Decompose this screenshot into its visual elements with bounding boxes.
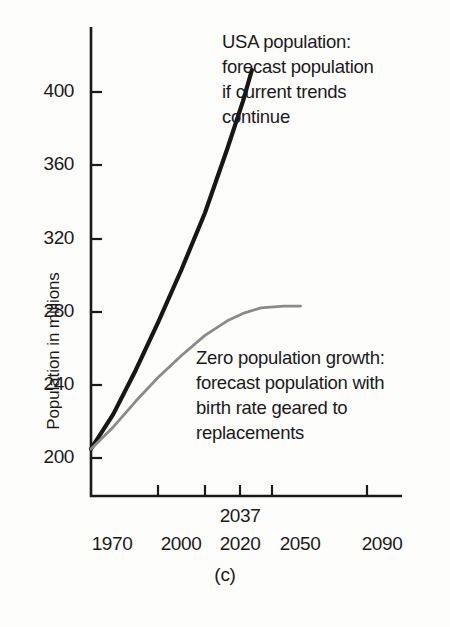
usa-population-annotation: USA population: forecast population if c… <box>222 29 374 129</box>
x-tick-label-2090: 2090 <box>362 533 403 555</box>
x-tick-label-1970: 1970 <box>92 533 133 555</box>
y-tick-label-320: 320 <box>12 227 74 249</box>
y-tick-label-400: 400 <box>12 80 74 102</box>
usa-annotation-line-2: forecast population <box>222 54 374 79</box>
x-tick-label-2050: 2050 <box>280 533 321 555</box>
x-tick-label-2000: 2000 <box>161 533 202 555</box>
y-axis-title: Population in millions <box>44 221 64 481</box>
zpg-annotation-line-2: forecast population with <box>196 370 385 395</box>
x-axis-extra-year-2037: 2037 <box>220 505 261 527</box>
x-axis-ticks <box>158 485 367 496</box>
usa-annotation-line-1: USA population: <box>222 29 374 54</box>
zpg-annotation-line-3: birth rate geared to <box>196 395 385 420</box>
usa-annotation-line-3: if current trends <box>222 79 374 104</box>
y-axis-ticks <box>91 92 102 458</box>
y-tick-label-360: 360 <box>12 153 74 175</box>
x-tick-label-2020: 2020 <box>220 533 261 555</box>
figure-caption: (c) <box>0 564 450 586</box>
y-tick-label-280: 280 <box>12 300 74 322</box>
zero-population-growth-annotation: Zero population growth: forecast populat… <box>196 345 385 445</box>
zpg-annotation-line-4: replacements <box>196 420 385 445</box>
y-tick-label-240: 240 <box>12 373 74 395</box>
usa-annotation-line-4: continue <box>222 104 374 129</box>
figure-container: Population in millions 400 360 320 280 2… <box>0 0 450 627</box>
y-tick-label-200: 200 <box>12 446 74 468</box>
zpg-annotation-line-1: Zero population growth: <box>196 345 385 370</box>
